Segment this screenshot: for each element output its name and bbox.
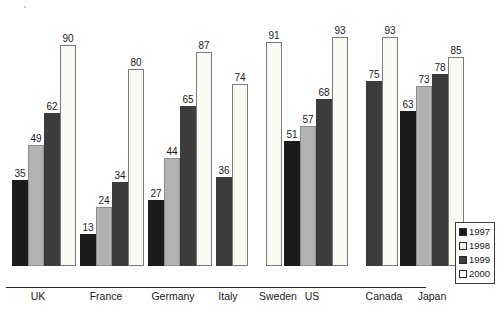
- legend-item-1999[interactable]: 1999: [459, 253, 492, 267]
- legend-swatch-icon: [459, 242, 467, 250]
- bar-uk-1999[interactable]: [44, 113, 60, 266]
- bar-value-label: 87: [191, 40, 217, 51]
- bar-chart: 3549629013243480274465873674915157689375…: [0, 0, 498, 310]
- legend-label: 1997: [469, 227, 490, 237]
- bar-slot: 78: [432, 0, 448, 266]
- legend-label: 1999: [469, 255, 490, 265]
- bar-slot: 34: [112, 0, 128, 266]
- bar-us-1999[interactable]: [316, 99, 332, 266]
- bar-canada-2000[interactable]: [382, 37, 398, 266]
- category-label-japan: Japan: [406, 290, 458, 302]
- x-axis-line: [6, 287, 426, 288]
- bar-group-italy: 3674: [216, 0, 248, 266]
- bar-us-1997[interactable]: [284, 141, 300, 266]
- legend-swatch-icon: [459, 270, 467, 278]
- bar-slot: 74: [232, 0, 248, 266]
- bar-germany-1997[interactable]: [148, 200, 164, 266]
- bar-uk-1997[interactable]: [12, 180, 28, 266]
- category-label-us: US: [292, 290, 332, 302]
- bar-slot: 51: [284, 0, 300, 266]
- category-label-uk: UK: [8, 290, 68, 302]
- bar-group-germany: 27446587: [148, 0, 212, 266]
- bar-uk-2000[interactable]: [60, 45, 76, 266]
- plot-area: 3549629013243480274465873674915157689375…: [0, 0, 498, 288]
- bar-slot: 80: [128, 0, 144, 266]
- footnote-text: [6, 302, 306, 309]
- bar-canada-1999[interactable]: [366, 81, 382, 266]
- bar-us-1998[interactable]: [300, 126, 316, 266]
- category-label-canada: Canada: [358, 290, 410, 302]
- bar-slot: 36: [216, 0, 232, 266]
- legend-label: 2000: [469, 269, 490, 279]
- bar-slot: 57: [300, 0, 316, 266]
- bar-group-us: 51576893: [284, 0, 348, 266]
- legend-swatch-icon: [459, 256, 467, 264]
- category-label-italy: Italy: [204, 290, 252, 302]
- legend-item-1997[interactable]: 1997: [459, 225, 492, 239]
- bar-value-label: 93: [327, 25, 353, 36]
- bar-germany-1999[interactable]: [180, 106, 196, 266]
- bar-slot: 90: [60, 0, 76, 266]
- bar-value-label: 90: [55, 33, 81, 44]
- legend-item-1998[interactable]: 1998: [459, 239, 492, 253]
- bar-germany-2000[interactable]: [196, 52, 212, 266]
- bar-slot: 44: [164, 0, 180, 266]
- bar-group-france: 13243480: [80, 0, 144, 266]
- bar-france-2000[interactable]: [128, 69, 144, 266]
- bar-france-1997[interactable]: [80, 234, 96, 266]
- bar-group-canada: 7593: [366, 0, 398, 266]
- category-label-france: France: [76, 290, 136, 302]
- legend-swatch-icon: [459, 228, 467, 236]
- bar-slot: 49: [28, 0, 44, 266]
- bar-germany-1998[interactable]: [164, 158, 180, 266]
- bar-us-2000[interactable]: [332, 37, 348, 266]
- bar-value-label: 85: [443, 45, 469, 56]
- bar-slot: 68: [316, 0, 332, 266]
- bar-value-label: 74: [227, 72, 253, 83]
- bar-italy-1999[interactable]: [216, 177, 232, 266]
- bar-japan-1997[interactable]: [400, 111, 416, 266]
- bar-value-label: 80: [123, 57, 149, 68]
- chart-legend: 1997 1998 1999 2000: [455, 222, 495, 284]
- bar-france-1998[interactable]: [96, 207, 112, 266]
- bar-slot: 75: [366, 0, 382, 266]
- bar-slot: 63: [400, 0, 416, 266]
- bar-japan-1998[interactable]: [416, 86, 432, 266]
- bar-france-1999[interactable]: [112, 182, 128, 266]
- bar-slot: 27: [148, 0, 164, 266]
- bar-slot: 24: [96, 0, 112, 266]
- legend-item-2000[interactable]: 2000: [459, 267, 492, 281]
- legend-label: 1998: [469, 241, 490, 251]
- bar-slot: 87: [196, 0, 212, 266]
- category-label-germany: Germany: [142, 290, 204, 302]
- bar-japan-1999[interactable]: [432, 74, 448, 266]
- bar-slot: 73: [416, 0, 432, 266]
- bar-slot: 13: [80, 0, 96, 266]
- bar-slot: 93: [382, 0, 398, 266]
- bar-italy-2000[interactable]: [232, 84, 248, 266]
- bar-slot: 93: [332, 0, 348, 266]
- bar-group-uk: 35496290: [12, 0, 76, 266]
- bar-uk-1998[interactable]: [28, 145, 44, 266]
- bar-sweden-2000[interactable]: [266, 42, 282, 266]
